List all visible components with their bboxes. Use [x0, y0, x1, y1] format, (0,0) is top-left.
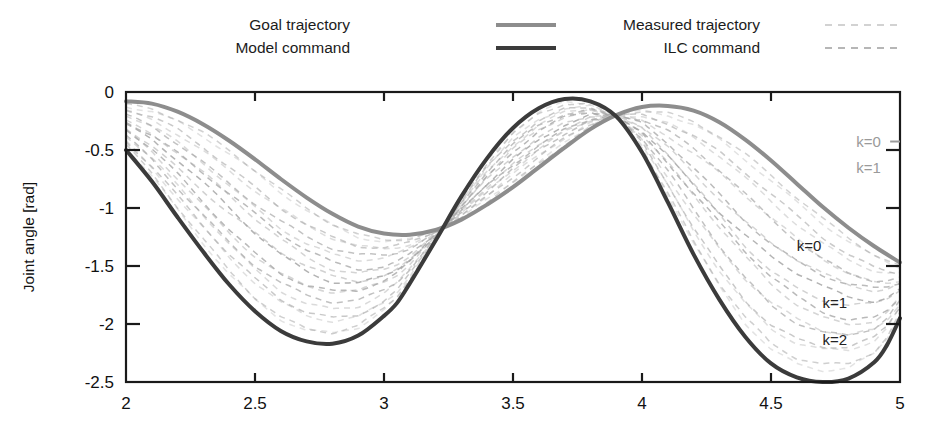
- legend-label-measured-trajectory: Measured trajectory: [623, 16, 760, 33]
- x-tick-label: 4.5: [759, 394, 783, 413]
- x-tick-label: 3: [379, 394, 388, 413]
- figure-root: Goal trajectoryModel commandMeasured tra…: [0, 0, 937, 440]
- annotation-cmd-k0: k=0: [797, 237, 822, 254]
- x-tick-label: 3.5: [501, 394, 525, 413]
- y-tick-label: -1: [99, 199, 114, 218]
- legend-label-ilc-command: ILC command: [664, 39, 760, 56]
- x-tick-label: 2: [121, 394, 130, 413]
- y-tick-label: -2: [99, 315, 114, 334]
- y-tick-label: 0: [105, 83, 114, 102]
- chart-background: [0, 0, 937, 440]
- y-tick-label: -2.5: [85, 373, 114, 392]
- legend-label-model-command: Model command: [235, 39, 350, 56]
- annotation-goal-k1: k=1: [856, 159, 881, 176]
- legend-label-goal-trajectory: Goal trajectory: [249, 16, 350, 33]
- y-axis-title: Joint angle [rad]: [20, 182, 37, 292]
- annotation-goal-k0: k=0: [856, 133, 881, 150]
- x-tick-label: 2.5: [243, 394, 267, 413]
- chart-canvas: Goal trajectoryModel commandMeasured tra…: [0, 0, 937, 440]
- annotation-cmd-k1: k=1: [823, 294, 848, 311]
- y-tick-label: -0.5: [85, 141, 114, 160]
- annotation-cmd-k2: k=2: [823, 331, 848, 348]
- x-tick-label: 4: [637, 394, 646, 413]
- x-tick-label: 5: [895, 394, 904, 413]
- y-tick-label: -1.5: [85, 257, 114, 276]
